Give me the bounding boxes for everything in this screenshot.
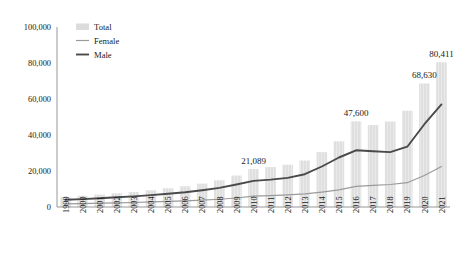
x-tick-2013: 2013 [301,196,310,213]
bar-total-2019 [402,111,413,207]
legend-label-male: Male [94,50,112,60]
x-tick-2003: 2003 [130,196,139,213]
x-tick-2010: 2010 [250,196,259,213]
x-tick-2004: 2004 [147,195,156,213]
x-tick-2016: 2016 [352,196,361,213]
bar-total-2016 [351,121,362,207]
legend-swatch-total [76,24,89,31]
y-tick-2: 40,000 [28,131,51,140]
bar-total-2020 [419,83,430,207]
y-tick-4: 80,000 [28,59,51,68]
bar-total-2021 [436,62,447,207]
data-label-2020: 68,630 [412,70,437,80]
x-tick-2015: 2015 [335,196,344,213]
x-tick-2007: 2007 [198,196,207,213]
x-tick-2001: 2001 [96,196,105,213]
legend-label-total: Total [94,22,112,32]
x-tick-2006: 2006 [181,196,190,213]
y-tick-0: 0 [47,203,51,212]
bar-total-2017 [368,125,379,207]
data-label-2010: 21,089 [241,156,266,166]
chart-figure: 020,00040,00060,00080,000100,00021,08947… [0,0,468,259]
x-tick-2002: 2002 [113,196,122,213]
x-tick-2017: 2017 [369,196,378,213]
x-tick-2020: 2020 [421,196,430,213]
y-tick-1: 20,000 [28,167,51,176]
x-tick-2009: 2009 [233,196,242,213]
x-tick-2011: 2011 [267,197,276,213]
x-tick-2018: 2018 [386,196,395,213]
x-tick-2008: 2008 [216,196,225,213]
legend-label-female: Female [94,36,119,46]
y-tick-5: 100,000 [24,23,51,32]
data-label-2016: 47,600 [344,108,369,118]
x-tick-2005: 2005 [164,196,173,213]
bar-total-2018 [385,122,396,208]
x-tick-2021: 2021 [438,196,447,213]
data-label-2021: 80,411 [429,49,453,59]
x-tick-2019: 2019 [403,196,412,213]
x-tick-2000: 2000 [79,196,88,213]
y-tick-3: 60,000 [28,95,51,104]
combo-chart: 020,00040,00060,00080,000100,00021,08947… [0,0,468,259]
x-tick-2012: 2012 [284,196,293,213]
x-tick-2014: 2014 [318,195,327,213]
x-tick-1999: 1999 [62,196,71,213]
